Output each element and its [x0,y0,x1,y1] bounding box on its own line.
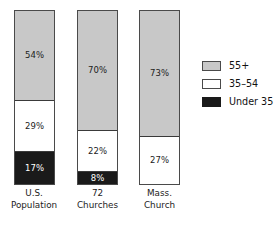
legend-item-55plus[interactable]: 55+ [202,57,276,75]
legend-swatch-icon [202,61,221,71]
segment-35-54[interactable]: 27% [140,136,179,184]
legend-item-label: 35–54 [229,79,258,89]
segment-35-54[interactable]: 22% [78,130,117,172]
segment-under-35[interactable]: 17% [15,151,54,184]
segment-value-label: 27% [150,156,169,165]
segment-value-label: 22% [88,147,107,156]
legend-swatch-icon [202,79,221,89]
bar-us-population[interactable]: 54% 29% 17% [14,10,55,185]
bar-mass-church[interactable]: 73% 27% [139,10,180,185]
segment-value-label: 29% [25,122,44,131]
segment-55plus[interactable]: 73% [140,11,179,136]
category-label-line-2: Church [122,200,197,212]
legend-item-label: Under 35 [229,97,273,107]
legend-swatch-icon [202,97,221,107]
segment-55plus[interactable]: 54% [15,11,54,100]
category-label-mass-church: Mass. Church [122,188,197,211]
legend-item-under-35[interactable]: Under 35 [202,93,276,111]
segment-35-54[interactable]: 29% [15,100,54,151]
chart-legend: 55+ 35–54 Under 35 [202,57,276,111]
stacked-bar-chart: 54% 29% 17% U.S. Population 70% 22% 8% [0,0,277,228]
legend-item-label: 55+ [229,61,249,71]
segment-value-label: 70% [88,66,107,75]
segment-under-35[interactable]: 8% [78,171,117,184]
segment-value-label: 54% [25,51,44,60]
segment-value-label: 73% [150,69,169,78]
bar-72-churches[interactable]: 70% 22% 8% [77,10,118,185]
legend-item-35-54[interactable]: 35–54 [202,75,276,93]
segment-value-label: 8% [91,174,105,183]
segment-55plus[interactable]: 70% [78,11,117,130]
category-label-line-1: Mass. [122,188,197,200]
segment-value-label: 17% [25,164,44,173]
